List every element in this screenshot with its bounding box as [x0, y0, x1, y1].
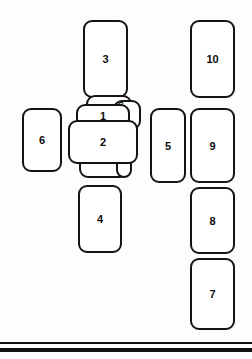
box-8-label: 8: [192, 215, 233, 226]
box-4[interactable]: 4: [78, 185, 122, 253]
box-3-label: 3: [85, 54, 126, 65]
rule-upper: [0, 342, 252, 344]
box-2-label: 2: [70, 137, 136, 148]
rule-lower: [0, 348, 252, 352]
box-2[interactable]: 2: [68, 120, 138, 164]
box-8[interactable]: 8: [190, 187, 235, 254]
box-7-label: 7: [192, 289, 233, 300]
box-5[interactable]: 5: [150, 108, 186, 183]
box-5-label: 5: [152, 140, 184, 151]
box-6[interactable]: 6: [22, 108, 62, 172]
box-10-label: 10: [192, 54, 233, 65]
box-3[interactable]: 3: [83, 20, 128, 98]
box-9[interactable]: 9: [190, 108, 235, 183]
box-7[interactable]: 7: [190, 258, 235, 330]
diagram-canvas: 3 10 6 5 9 8 4 7 S 1 2: [0, 0, 252, 359]
box-6-label: 6: [24, 135, 60, 146]
box-10[interactable]: 10: [190, 20, 235, 98]
box-9-label: 9: [192, 140, 233, 151]
box-4-label: 4: [80, 214, 120, 225]
